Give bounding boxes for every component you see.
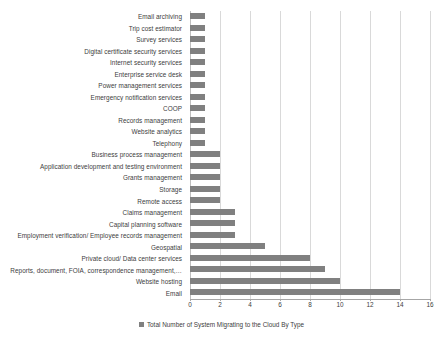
- bar: [190, 151, 220, 157]
- category-label-row: Application development and testing envi…: [0, 161, 186, 173]
- category-label-row: Capital planning software: [0, 218, 186, 230]
- category-label-row: Remote access: [0, 195, 186, 207]
- category-label-row: Reports, document, FOIA, correspondence …: [0, 264, 186, 276]
- bar: [190, 266, 325, 272]
- category-label: Website analytics: [132, 128, 182, 135]
- x-tick-mark-8: [310, 299, 311, 301]
- category-label: Private cloud/ Data center services: [82, 255, 183, 262]
- category-axis-labels: Email archivingTrip cost estimatorSurvey…: [0, 11, 186, 299]
- bar: [190, 71, 205, 77]
- bar: [190, 105, 205, 111]
- bar: [190, 128, 205, 134]
- bar-row: [190, 172, 430, 184]
- category-label-row: Enterprise service desk: [0, 69, 186, 81]
- category-label: Internet security services: [110, 59, 182, 66]
- gridline-16: [430, 11, 431, 299]
- bar: [190, 220, 235, 226]
- x-tick-label-0: 0: [188, 301, 192, 308]
- category-label: Storage: [159, 186, 182, 193]
- bar-row: [190, 184, 430, 196]
- category-label: Email: [166, 290, 182, 297]
- category-label: Grants management: [123, 174, 182, 181]
- category-label: Application development and testing envi…: [40, 163, 182, 170]
- bar-row: [190, 80, 430, 92]
- bar-row: [190, 195, 430, 207]
- bar: [190, 59, 205, 65]
- category-label-row: Employment verification/ Employee record…: [0, 230, 186, 242]
- bar: [190, 209, 235, 215]
- category-label: Website hosting: [136, 278, 182, 285]
- x-tick-mark-16: [430, 299, 431, 301]
- bar-row: [190, 103, 430, 115]
- bar: [190, 186, 220, 192]
- plot-area: [190, 11, 430, 299]
- category-label: Email archiving: [138, 13, 182, 20]
- category-label-row: Records management: [0, 115, 186, 127]
- bar-row: [190, 276, 430, 288]
- x-tick-mark-12: [370, 299, 371, 301]
- bar-row: [190, 253, 430, 265]
- category-label: Capital planning software: [109, 221, 182, 228]
- category-label-row: Telephony: [0, 138, 186, 150]
- bar-row: [190, 92, 430, 104]
- bar-row: [190, 161, 430, 173]
- x-tick-label-14: 14: [396, 301, 403, 308]
- bar: [190, 232, 235, 238]
- bar: [190, 174, 220, 180]
- bar-row: [190, 126, 430, 138]
- bar-row: [190, 218, 430, 230]
- x-tick-label-2: 2: [218, 301, 222, 308]
- category-label-row: COOP: [0, 103, 186, 115]
- bar-row: [190, 230, 430, 242]
- bar: [190, 48, 205, 54]
- x-axis-tick-labels: 0246810121416: [190, 301, 431, 313]
- category-label-row: Business process management: [0, 149, 186, 161]
- category-label: Remote access: [137, 198, 182, 205]
- x-tick-label-12: 12: [366, 301, 373, 308]
- bar: [190, 289, 400, 295]
- bar: [190, 36, 205, 42]
- category-label-row: Trip cost estimator: [0, 23, 186, 35]
- x-tick-mark-10: [340, 299, 341, 301]
- legend-label: Total Number of System Migrating to the …: [147, 321, 304, 328]
- category-label-row: Email archiving: [0, 11, 186, 23]
- category-label: Business process management: [91, 151, 182, 158]
- bar-row: [190, 241, 430, 253]
- x-tick-label-8: 8: [308, 301, 312, 308]
- category-label: Records management: [118, 117, 182, 124]
- category-label: Digital certificate security services: [84, 48, 182, 55]
- category-label: COOP: [163, 105, 182, 112]
- bar-row: [190, 138, 430, 150]
- category-label-row: Digital certificate security services: [0, 46, 186, 58]
- bar: [190, 163, 220, 169]
- x-tick-label-10: 10: [336, 301, 343, 308]
- bar: [190, 117, 205, 123]
- x-tick-label-6: 6: [278, 301, 282, 308]
- bar-row: [190, 11, 430, 23]
- category-label: Geospatial: [151, 244, 182, 251]
- category-label-row: Grants management: [0, 172, 186, 184]
- category-label-row: Private cloud/ Data center services: [0, 253, 186, 265]
- category-label: Emergency notification services: [91, 94, 182, 101]
- bar-row: [190, 115, 430, 127]
- category-label-row: Website hosting: [0, 276, 186, 288]
- category-label-row: Power management services: [0, 80, 186, 92]
- x-tick-mark-4: [250, 299, 251, 301]
- category-label: Trip cost estimator: [129, 25, 182, 32]
- bar: [190, 94, 205, 100]
- bar-row: [190, 69, 430, 81]
- bar-row: [190, 207, 430, 219]
- x-tick-mark-6: [280, 299, 281, 301]
- bar: [190, 13, 205, 19]
- chart-legend: Total Number of System Migrating to the …: [0, 321, 443, 328]
- category-label: Reports, document, FOIA, correspondence …: [10, 267, 182, 274]
- bar: [190, 243, 265, 249]
- category-label-row: Geospatial: [0, 241, 186, 253]
- category-label-row: Emergency notification services: [0, 92, 186, 104]
- bar-rows: [190, 11, 430, 299]
- x-tick-mark-2: [220, 299, 221, 301]
- category-label: Telephony: [152, 140, 182, 147]
- bar: [190, 82, 205, 88]
- x-tick-label-16: 16: [426, 301, 433, 308]
- category-label: Employment verification/ Employee record…: [17, 232, 182, 239]
